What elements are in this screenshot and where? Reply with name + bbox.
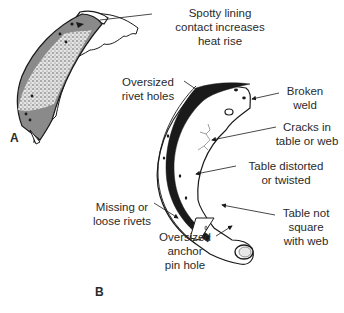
panel-label-b: B	[95, 285, 104, 299]
callout-missing-loose-rivets: Missing or loose rivets	[90, 200, 154, 228]
callout-oversized-anchor-pin-hole: Oversized anchor pin hole	[152, 230, 218, 272]
panel-label-a: A	[10, 131, 19, 145]
brake-shoe-diagram: Spotty lining contact increases heat ris…	[0, 0, 344, 313]
callout-cracks-in-table-or-web: Cracks in table or web	[270, 120, 344, 148]
callout-broken-weld: Broken weld	[280, 84, 330, 112]
callout-oversized-rivet-holes: Oversized rivet holes	[116, 75, 180, 103]
callout-spotty-lining-contact: Spotty lining contact increases heat ris…	[154, 6, 286, 48]
callout-table-not-square: Table not square with web	[276, 206, 336, 248]
callout-table-distorted: Table distorted or twisted	[236, 159, 336, 187]
